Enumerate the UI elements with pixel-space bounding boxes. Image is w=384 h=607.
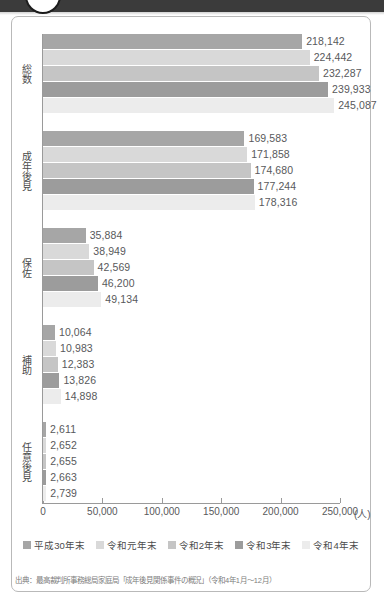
bar [43,50,310,65]
bar [43,325,55,340]
bar-row: 178,316 [43,195,340,210]
legend-item: 令和3年末 [235,538,291,552]
legend-item: 令和4年末 [302,538,358,552]
x-tick-label: 200,000 [263,506,299,517]
legend-swatch [168,541,176,549]
x-tick-label: 0 [40,506,46,517]
x-tick-label: 150,000 [203,506,239,517]
bar-value-label: 171,858 [247,147,290,162]
bar-value-label: 2,611 [46,422,76,437]
legend-swatch [96,541,104,549]
bar [43,147,247,162]
bar-row: 46,200 [43,276,340,291]
bar [43,276,98,291]
bar-row: 2,739 [43,486,340,501]
bar-group: 169,583171,858174,680177,244178,316 [43,131,340,211]
bar [43,357,58,372]
x-tick-label: 50,000 [87,506,118,517]
legend-label: 令和3年末 [246,538,291,552]
bar-row: 14,898 [43,389,340,404]
x-axis-unit-label: (人) [354,506,371,521]
bar [43,98,334,113]
bar-value-label: 2,739 [46,486,77,501]
category-label: 総数 [11,34,41,114]
bar-row: 171,858 [43,147,340,162]
bar-value-label: 42,569 [94,260,131,275]
category-label: 保佐 [11,228,41,308]
bar-value-label: 35,884 [86,228,123,243]
bar-group: 218,142224,442232,287239,933245,087 [43,34,340,114]
top-header-bar [0,0,384,12]
bar-row: 49,134 [43,292,340,307]
bar [43,179,254,194]
bar-value-label: 2,663 [46,470,77,485]
bar-row: 38,949 [43,244,340,259]
bar-value-label: 177,244 [254,179,297,194]
bar-row: 169,583 [43,131,340,146]
legend-label: 平成30年末 [34,538,85,552]
legend-item: 令和元年末 [96,538,157,552]
bar-value-label: 2,655 [46,454,77,469]
bar [43,66,319,81]
bar-row: 2,655 [43,454,340,469]
header-shadow [0,12,384,15]
bar-row: 10,983 [43,341,340,356]
bar [43,389,61,404]
legend-swatch [23,541,31,549]
bar [43,341,56,356]
bar-row: 2,652 [43,438,340,453]
bar-row: 224,442 [43,50,340,65]
bar-row: 13,826 [43,373,340,388]
bar-row: 177,244 [43,179,340,194]
bar-value-label: 169,583 [244,131,287,146]
bar [43,195,255,210]
bar-value-label: 46,200 [98,276,135,291]
bar-chart: 218,142224,442232,287239,933245,087169,5… [11,20,371,512]
source-note: 出典：最高裁判所事務総局家庭局「成年後見関係事件の概況」（令和4年1月～12月） [15,574,276,585]
bar-value-label: 174,680 [251,163,294,178]
x-tick-label: 250,000 [322,506,358,517]
bar [43,163,251,178]
legend-label: 令和4年末 [313,538,358,552]
legend-swatch [302,541,310,549]
bar-group: 35,88438,94942,56946,20049,134 [43,228,340,308]
bar-row: 232,287 [43,66,340,81]
bar-value-label: 178,316 [255,195,298,210]
bar-value-label: 2,652 [46,438,77,453]
x-tick [340,498,341,503]
bar-value-label: 10,064 [55,325,92,340]
bar [43,34,302,49]
bar [43,260,94,275]
bar-row: 2,611 [43,422,340,437]
category-label: 補助 [11,325,41,405]
bar-value-label: 232,287 [319,66,362,81]
bar-row: 10,064 [43,325,340,340]
bar-value-label: 224,442 [310,50,353,65]
plot-area: 218,142224,442232,287239,933245,087169,5… [43,34,340,503]
bar-row: 239,933 [43,82,340,97]
x-tick-label: 100,000 [144,506,180,517]
bar-value-label: 239,933 [328,82,371,97]
bar-value-label: 49,134 [101,292,138,307]
bar-value-label: 10,983 [56,341,93,356]
bar-row: 2,663 [43,470,340,485]
bar-group: 10,06410,98312,38313,82614,898 [43,325,340,405]
bar-row: 174,680 [43,163,340,178]
bar-value-label: 38,949 [89,244,126,259]
bar [43,244,89,259]
category-label: 成年後見 [11,131,41,211]
legend-swatch [235,541,243,549]
x-axis-line [42,503,340,504]
legend-item: 平成30年末 [23,538,85,552]
bar [43,82,328,97]
category-label: 任意後見 [11,422,41,502]
legend-label: 令和元年末 [107,538,157,552]
bar-value-label: 14,898 [61,389,98,404]
bar-group: 2,6112,6522,6552,6632,739 [43,422,340,502]
x-axis-tick-labels: 050,000100,000150,000200,000250,000(人) [11,506,371,520]
legend-label: 令和2年末 [179,538,224,552]
bar [43,373,59,388]
bar-value-label: 245,087 [334,98,377,113]
bar-value-label: 12,383 [58,357,95,372]
bar-row: 35,884 [43,228,340,243]
